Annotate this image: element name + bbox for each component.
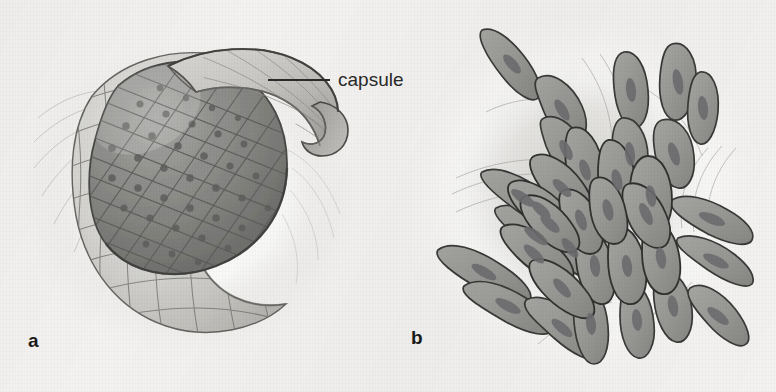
figure-root: capsule a b — [0, 0, 776, 392]
capsule-callout: capsule — [268, 68, 438, 94]
capsule-leader-line — [268, 79, 330, 81]
capsule-label: capsule — [338, 68, 404, 92]
panel-b-illustration — [386, 0, 776, 392]
panel-label-a: a — [28, 330, 39, 352]
panel-a-illustration — [0, 0, 392, 392]
panel-b — [386, 0, 776, 392]
panel-a — [0, 0, 392, 392]
panel-label-b: b — [411, 327, 423, 349]
